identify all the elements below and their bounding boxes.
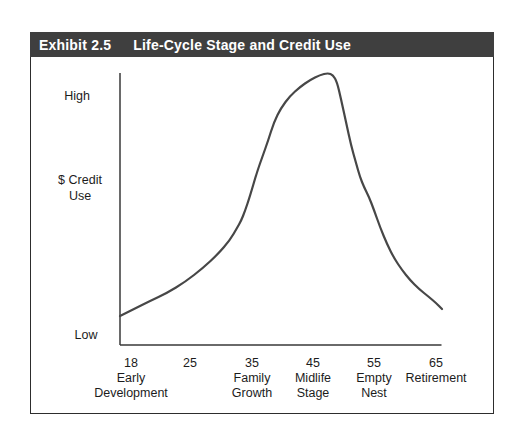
x-tick-group: 55EmptyNest xyxy=(356,356,391,401)
y-axis-title: $ Credit Use xyxy=(58,173,102,204)
x-tick-group: 25 xyxy=(183,356,197,371)
x-tick-age: 55 xyxy=(356,356,391,371)
exhibit-title: Life-Cycle Stage and Credit Use xyxy=(133,37,351,53)
y-axis-high-label: High xyxy=(64,89,90,105)
y-axis-title-line2: Use xyxy=(58,188,102,204)
x-tick-group: 18EarlyDevelopment xyxy=(94,356,168,401)
x-tick-stage: Nest xyxy=(356,386,391,401)
x-tick-group: 35FamilyGrowth xyxy=(232,356,272,401)
exhibit-header: Exhibit 2.5 Life-Cycle Stage and Credit … xyxy=(30,32,494,57)
x-tick-group: 65Retirement xyxy=(405,356,466,386)
x-tick-stage: Empty xyxy=(356,371,391,386)
page-background: Exhibit 2.5 Life-Cycle Stage and Credit … xyxy=(0,0,519,440)
x-tick-age: 45 xyxy=(295,356,331,371)
x-tick-age: 18 xyxy=(94,356,168,371)
x-tick-stage: Development xyxy=(94,386,168,401)
x-tick-age: 25 xyxy=(183,356,197,371)
x-tick-group: 45MidlifeStage xyxy=(295,356,331,401)
y-axis-title-line1: $ Credit xyxy=(58,173,102,189)
x-tick-stage: Midlife xyxy=(295,371,331,386)
x-tick-stage: Growth xyxy=(232,386,272,401)
x-tick-stage: Family xyxy=(232,371,272,386)
x-tick-age: 35 xyxy=(232,356,272,371)
y-axis-low-label: Low xyxy=(75,328,98,344)
x-tick-stage: Retirement xyxy=(405,371,466,386)
x-tick-age: 65 xyxy=(405,356,466,371)
x-tick-stage: Early xyxy=(94,371,168,386)
exhibit-number: Exhibit 2.5 xyxy=(39,37,111,53)
x-tick-stage: Stage xyxy=(295,386,331,401)
